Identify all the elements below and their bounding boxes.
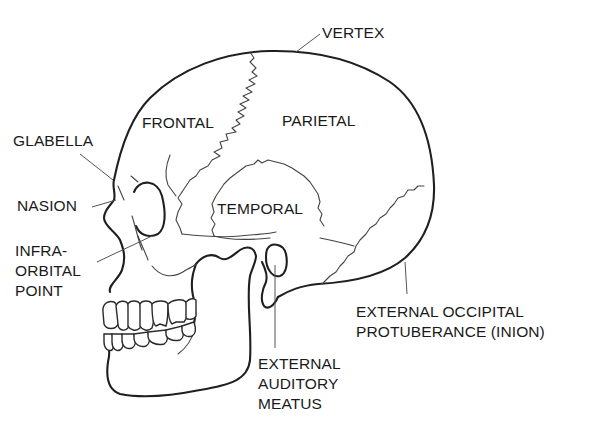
squamosal-suture xyxy=(211,160,324,236)
skull-diagram: VERTEX FRONTAL PARIETAL TEMPORAL GLABELL… xyxy=(0,0,591,429)
label-external-auditory-meatus: EXTERNAL AUDITORY MEATUS xyxy=(258,354,341,414)
frontal-branch-suture xyxy=(166,155,176,196)
label-vertex: VERTEX xyxy=(322,23,384,43)
glabella-leader xyxy=(80,154,113,180)
label-frontal: FRONTAL xyxy=(142,113,214,133)
mastoid-process xyxy=(262,262,278,308)
label-parietal: PARIETAL xyxy=(282,111,355,131)
vertex-leader xyxy=(296,34,320,52)
zygomatic-line xyxy=(138,236,148,260)
label-temporal: TEMPORAL xyxy=(217,199,303,219)
sphenofrontal-suture xyxy=(176,192,182,234)
label-infraorbital-point: INFRA- ORBITAL POINT xyxy=(15,241,81,301)
orbit-inner-line xyxy=(131,176,138,182)
label-external-occipital-protuberance: EXTERNAL OCCIPITAL PROTUBERANCE (INION) xyxy=(356,302,545,342)
nasal-line xyxy=(118,186,124,200)
orbit xyxy=(134,183,165,236)
parietomastoid-suture xyxy=(320,238,354,246)
maxilla-line xyxy=(152,264,196,276)
face-profile xyxy=(104,180,124,292)
ear-canal xyxy=(266,245,287,277)
lambdoid-suture xyxy=(322,186,424,284)
label-nasion: NASION xyxy=(17,196,77,216)
cranium-outline xyxy=(114,51,434,297)
zygomatic-arch xyxy=(182,232,276,237)
label-glabella: GLABELLA xyxy=(13,131,93,151)
inion-leader xyxy=(405,262,407,294)
